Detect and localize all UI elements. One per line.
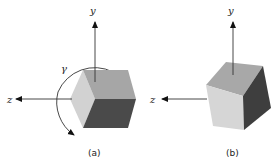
z-axis-label-a: z: [6, 94, 13, 105]
gamma-label: γ: [61, 63, 67, 74]
y-axis-label-a: y: [89, 5, 96, 16]
caption-a: (a): [88, 148, 101, 158]
panel-a: y z γ (a): [6, 5, 136, 158]
figure-canvas: y z γ (a) y z (b): [0, 0, 275, 162]
y-axis-label-b: y: [227, 5, 234, 16]
z-axis-label-b: z: [149, 94, 156, 105]
panel-b: y z (b): [149, 5, 271, 158]
figure-svg: y z γ (a) y z (b): [0, 0, 275, 162]
caption-b: (b): [226, 148, 239, 158]
